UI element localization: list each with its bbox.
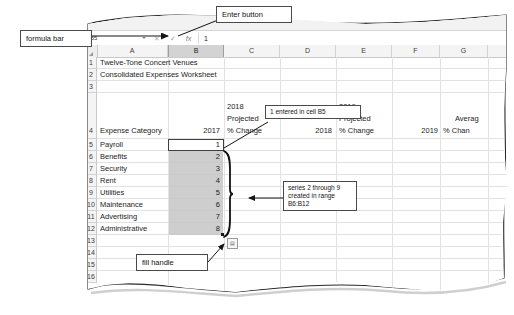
gridline-row-6 xyxy=(97,162,511,163)
cell-c4-pctchange[interactable]: % Change xyxy=(227,126,279,135)
autofill-options-icon[interactable]: ▤ xyxy=(227,238,238,249)
cell-a1[interactable]: Twelve-Tone Concert Venues xyxy=(100,58,300,67)
gridline-row-7 xyxy=(97,174,511,175)
enter-button[interactable]: ✓ xyxy=(166,33,179,44)
cell-a10[interactable]: Maintenance xyxy=(100,200,170,209)
cell-b4[interactable]: 2017 xyxy=(170,126,220,135)
callout-entered-in-b5-text: 1 entered in cell B5 xyxy=(270,108,326,115)
formula-bar-value[interactable]: 1 xyxy=(204,32,208,45)
column-header-e[interactable]: E xyxy=(336,45,392,57)
column-header-d[interactable]: D xyxy=(280,45,336,57)
column-header-g[interactable]: G xyxy=(440,45,488,57)
cell-a4[interactable]: Expense Category xyxy=(100,126,180,135)
cell-a7[interactable]: Security xyxy=(100,164,170,173)
callout-series-created-text: series 2 through 9 created in range B6:B… xyxy=(288,184,340,207)
select-all-triangle-icon xyxy=(89,52,93,56)
figure-root: Themes B5 ✕ ✓ fx 1 A B C D E xyxy=(0,0,514,315)
callout-formula-bar-text: formula bar xyxy=(26,34,64,43)
callout-entered-in-b5: 1 entered in cell B5 xyxy=(265,105,361,119)
gridline-row-4 xyxy=(97,138,511,139)
callout-enter-button: Enter button xyxy=(216,6,292,23)
column-header-c[interactable]: C xyxy=(224,45,280,57)
cell-a6[interactable]: Benefits xyxy=(100,152,170,161)
column-header-b[interactable]: B xyxy=(168,45,224,57)
cancel-button[interactable]: ✕ xyxy=(150,33,163,44)
cell-a12[interactable]: Administrative xyxy=(100,224,170,233)
gridline-row-11 xyxy=(97,222,511,223)
gridline-col-c-d xyxy=(280,57,281,302)
cell-a2[interactable]: Consolidated Expenses Worksheet xyxy=(100,70,300,79)
gridline-row-13 xyxy=(97,246,511,247)
cell-b11[interactable]: 7 xyxy=(170,212,220,221)
gridline-row-1 xyxy=(97,68,511,69)
cell-g4-average[interactable]: Averag xyxy=(455,114,507,123)
cell-b6[interactable]: 2 xyxy=(170,152,220,161)
name-box[interactable]: B5 xyxy=(88,32,144,45)
name-box-dropdown-icon[interactable] xyxy=(142,37,146,39)
active-cell-b5-outline[interactable] xyxy=(168,139,224,151)
gridline-row-3 xyxy=(97,92,511,93)
cell-a5[interactable]: Payroll xyxy=(100,140,170,149)
cell-a8[interactable]: Rent xyxy=(100,176,170,185)
callout-fill-handle-text: fill handle xyxy=(142,258,174,267)
cell-a11[interactable]: Advertising xyxy=(100,212,170,221)
gridline-row-12 xyxy=(97,234,511,235)
cell-b7[interactable]: 3 xyxy=(170,164,220,173)
gridline-col-e-f xyxy=(392,57,393,302)
cell-g4-pctchange[interactable]: % Chan xyxy=(443,126,503,135)
gridline-row-2 xyxy=(97,80,511,81)
gridline-col-g-h xyxy=(488,57,489,302)
cell-b12[interactable]: 8 xyxy=(170,224,220,233)
fill-range-bracket xyxy=(222,149,234,239)
callout-fill-handle: fill handle xyxy=(136,254,208,271)
column-header-a[interactable]: A xyxy=(97,45,168,57)
cell-f4[interactable]: 2019 xyxy=(390,126,438,135)
insert-function-icon[interactable]: fx xyxy=(182,33,195,44)
cell-d4[interactable]: 2018 xyxy=(282,126,332,135)
callout-enter-button-text: Enter button xyxy=(222,10,263,19)
cell-b9[interactable]: 5 xyxy=(170,188,220,197)
cell-a9[interactable]: Utilities xyxy=(100,188,170,197)
cell-b8[interactable]: 4 xyxy=(170,176,220,185)
cell-e4-pctchange[interactable]: % Change xyxy=(339,126,391,135)
formula-bar-divider xyxy=(198,33,199,44)
callout-series-created: series 2 through 9 created in range B6:B… xyxy=(283,181,357,211)
cell-b10[interactable]: 6 xyxy=(170,200,220,209)
column-header-f[interactable]: F xyxy=(392,45,440,57)
gridline-col-f-g xyxy=(440,57,441,302)
gridline-row-5 xyxy=(97,150,511,151)
gridline-col-d-e xyxy=(336,57,337,302)
callout-formula-bar: formula bar xyxy=(20,30,92,47)
